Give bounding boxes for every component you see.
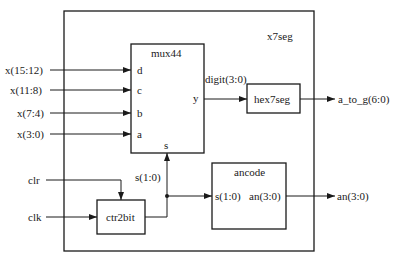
input-x-11-8-label: x(11:8) [10, 84, 42, 97]
input-x-15-12-label: x(15:12) [5, 64, 43, 77]
output-a-to-g-label: a_to_g(6:0) [338, 93, 390, 106]
junction-dot [165, 194, 169, 198]
mux44-port-y: y [193, 92, 199, 104]
s-signal-label: s(1:0) [135, 171, 161, 184]
mux44-port-d: d [137, 64, 143, 76]
ancode-block: ancode s(1:0) an(3:0) [212, 163, 286, 229]
wire-clr [46, 180, 121, 200]
ancode-label: ancode [234, 166, 265, 178]
x7seg-title: x7seg [267, 30, 293, 42]
mux44-block: mux44 d c b a y s [131, 44, 204, 153]
mux44-port-b: b [137, 107, 143, 119]
ctr2bit-label: ctr2bit [106, 211, 135, 223]
input-x-7-4-label: x(7:4) [17, 107, 44, 120]
ancode-port-in: s(1:0) [215, 190, 241, 203]
digit-signal-label: digit(3:0) [205, 73, 247, 86]
x7seg-outer-box [64, 11, 314, 251]
mux44-label: mux44 [151, 47, 182, 59]
mux44-port-c: c [137, 84, 142, 96]
hex7seg-label: hex7seg [254, 93, 291, 105]
input-clr-label: clr [28, 174, 40, 186]
mux44-port-a: a [137, 128, 142, 140]
ancode-port-out: an(3:0) [249, 190, 281, 203]
mux44-port-s: s [164, 139, 168, 151]
output-an-label: an(3:0) [337, 190, 369, 203]
hex7seg-block: hex7seg [247, 84, 300, 113]
input-clk-label: clk [28, 211, 42, 223]
wire-s-to-mux [145, 153, 167, 217]
input-x-3-0-label: x(3:0) [17, 128, 44, 141]
x7seg-block-diagram: x7seg mux44 d c b a y s x(15:12) x(11:8)… [0, 0, 393, 258]
ctr2bit-block: ctr2bit [97, 200, 145, 234]
